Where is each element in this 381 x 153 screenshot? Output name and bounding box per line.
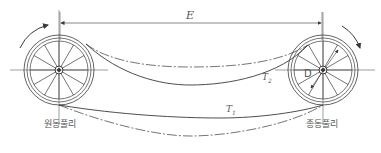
driving-pulley xyxy=(10,10,108,125)
driving-pulley-label: 원동풀리 xyxy=(44,117,76,130)
tight-tension-subscript: 1 xyxy=(232,109,236,116)
tight-tension-label: T1 xyxy=(226,104,236,116)
driven-pulley xyxy=(275,12,375,125)
driven-pulley-label: 종동풀리 xyxy=(306,117,338,130)
diameter-label: D xyxy=(304,68,312,79)
belt xyxy=(59,44,323,136)
slack-tension-label: T2 xyxy=(262,72,272,84)
slack-tension-subscript: 2 xyxy=(268,77,272,84)
center-distance-label: E xyxy=(186,9,194,22)
belt-drive-diagram xyxy=(0,0,381,153)
